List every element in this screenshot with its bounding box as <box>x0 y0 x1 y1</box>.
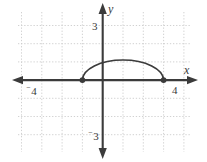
x-axis-arrow-right <box>187 76 198 84</box>
x-tick-label-positive-4: 4 <box>172 85 178 96</box>
endpoint-dot-right <box>161 77 167 83</box>
y-axis-arrow-up <box>99 3 107 14</box>
x-tick-value-negative: 4 <box>31 85 37 97</box>
graph-canvas <box>0 0 207 162</box>
y-axis-label: y <box>108 3 113 15</box>
x-axis <box>12 76 198 84</box>
y-tick-label-negative-3: ⁻3 <box>88 130 99 142</box>
coordinate-plane-figure: y x 3 ⁻3 ⁻4 4 <box>0 0 207 162</box>
arc-path <box>82 60 163 80</box>
x-axis-arrow-left <box>12 76 23 84</box>
y-tick-value-negative: 3 <box>93 130 99 142</box>
y-tick-label-positive-3: 3 <box>92 21 98 32</box>
y-axis-arrow-down <box>99 148 107 159</box>
endpoint-dot-left <box>80 77 86 83</box>
x-tick-label-negative-4: ⁻4 <box>26 85 37 97</box>
x-axis-label: x <box>184 64 189 76</box>
